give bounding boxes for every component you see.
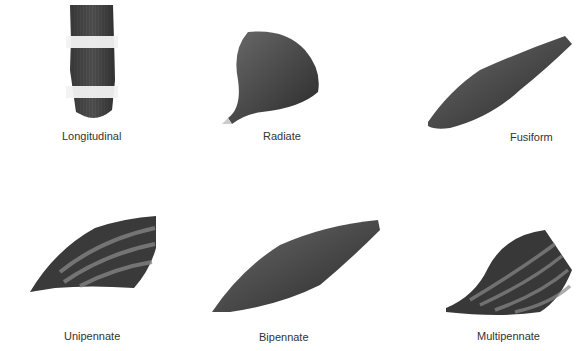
label-fusiform: Fusiform: [510, 131, 553, 143]
label-bipennate: Bipennate: [259, 331, 309, 343]
multipennate-muscle-shape: [446, 230, 572, 315]
label-multipennate: Multipennate: [477, 330, 540, 342]
label-unipennate: Unipennate: [64, 330, 120, 342]
unipennate-muscle-shape: [30, 216, 156, 292]
bipennate-muscle-shape: [212, 220, 380, 312]
longitudinal-muscle-shape: [66, 5, 118, 118]
label-radiate: Radiate: [263, 130, 301, 142]
muscle-shapes-diagram: [0, 0, 584, 351]
radiate-muscle-shape: [222, 31, 319, 124]
label-longitudinal: Longitudinal: [62, 130, 121, 142]
fusiform-muscle-shape: [428, 36, 572, 129]
